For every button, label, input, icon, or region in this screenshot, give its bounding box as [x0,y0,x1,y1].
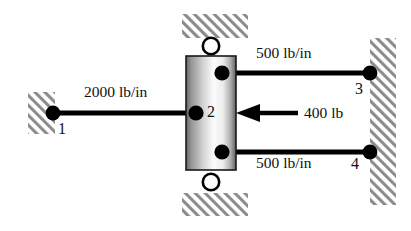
spring-system-diagram [0,0,411,231]
top-guide-support [182,14,248,38]
node-4-dot [363,145,378,160]
node-2-label: 2 [207,104,215,120]
node-3-label: 3 [355,81,363,97]
node-2-dot [188,105,203,120]
node-2-top-dot [214,65,229,80]
node-3-dot [363,66,378,81]
bottom-roller-icon [203,174,219,190]
applied-force-arrow [236,104,298,122]
top-roller-icon [203,38,219,54]
bottom-guide-support [182,193,248,216]
spring-2-3-label: 500 lb/in [256,45,312,61]
node-4-label: 4 [351,156,359,172]
right-wall-support [370,38,396,205]
node-2-bottom-dot [214,144,229,159]
spring-2-4-label: 500 lb/in [256,155,312,171]
node-1-dot [46,106,61,121]
applied-force-label: 400 lb [304,105,343,121]
node-1-label: 1 [58,121,66,137]
spring-1-2-label: 2000 lb/in [84,84,147,100]
